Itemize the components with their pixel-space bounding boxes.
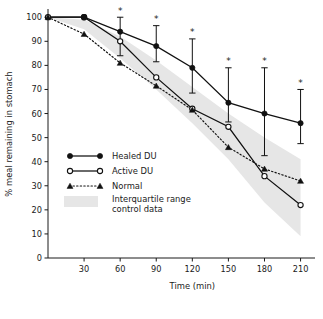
x-tick-label: 210 [293, 264, 309, 274]
data-point-healed-du [118, 29, 123, 34]
y-tick-label: 20 [32, 205, 42, 215]
data-point-active-du [118, 39, 123, 44]
legend-active-du-swatch-start [67, 168, 72, 173]
y-tick-label: 50 [32, 133, 42, 143]
x-tick-label: 30 [79, 264, 89, 274]
significance-marker: * [226, 56, 231, 66]
x-axis-title: Time (min) [169, 281, 216, 291]
data-point-healed-du [154, 44, 159, 49]
chart-figure: 0102030405060708090100306090120150180210… [0, 0, 323, 319]
data-point-active-du [262, 174, 267, 179]
y-axis-title: % meal remaining in stomach [4, 71, 14, 196]
legend-normal-swatch-end [97, 183, 103, 188]
y-tick-label: 10 [32, 229, 42, 239]
significance-marker: * [118, 6, 123, 16]
significance-marker: * [262, 56, 267, 66]
y-tick-label: 30 [32, 181, 42, 191]
legend-healed-du-label: Healed DU [112, 151, 157, 161]
legend-healed-du-swatch-end [97, 153, 102, 158]
y-tick-label: 0 [37, 253, 42, 263]
data-point-active-du [226, 124, 231, 129]
x-tick-label: 120 [185, 264, 201, 274]
data-point-healed-du [298, 121, 303, 126]
gastric-emptying-line-chart: 0102030405060708090100306090120150180210… [0, 0, 323, 319]
significance-marker: * [190, 27, 195, 37]
legend-band-swatch [64, 196, 98, 207]
data-point-healed-du [226, 100, 231, 105]
legend-active-du-swatch-end [97, 168, 102, 173]
series-line-healed-du [48, 17, 301, 123]
x-tick-label: 90 [151, 264, 161, 274]
y-tick-label: 100 [26, 12, 42, 22]
y-tick-label: 60 [32, 109, 42, 119]
y-tick-label: 40 [32, 157, 42, 167]
legend-healed-du-swatch-start [67, 153, 72, 158]
x-tick-label: 180 [257, 264, 273, 274]
significance-marker: * [298, 78, 303, 88]
significance-marker: * [154, 14, 159, 24]
data-point-active-du [154, 75, 159, 80]
y-tick-label: 70 [32, 84, 42, 94]
data-point-active-du [298, 202, 303, 207]
data-point-healed-du [190, 65, 195, 70]
y-tick-label: 80 [32, 60, 42, 70]
data-point-healed-du [262, 111, 267, 116]
legend-active-du-label: Active DU [112, 166, 153, 176]
data-point-normal [81, 31, 87, 36]
y-tick-label: 90 [32, 36, 42, 46]
legend-band-label-line2: control data [112, 204, 163, 214]
legend-normal-swatch-start [67, 183, 73, 188]
x-tick-label: 150 [221, 264, 237, 274]
legend-band-label-line1: Interquartile range [112, 194, 191, 204]
legend-normal-label: Normal [112, 181, 142, 191]
x-tick-label: 60 [115, 264, 125, 274]
data-point-healed-du [81, 15, 86, 20]
